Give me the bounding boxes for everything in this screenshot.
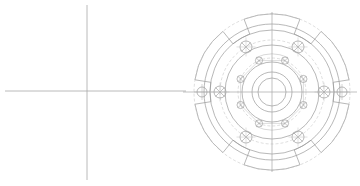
construction-centerlines (5, 5, 186, 180)
outer-bolt-hole-1[interactable] (289, 37, 308, 56)
flange-plan-view[interactable] (183, 12, 357, 172)
cad-drawing-svg[interactable] (0, 0, 360, 186)
outer-bolt-hole-6[interactable] (237, 37, 256, 56)
outer-bolt-hole-3[interactable] (289, 128, 308, 147)
outer-bolt-hole-4[interactable] (237, 128, 256, 147)
drawing-canvas (0, 0, 360, 186)
